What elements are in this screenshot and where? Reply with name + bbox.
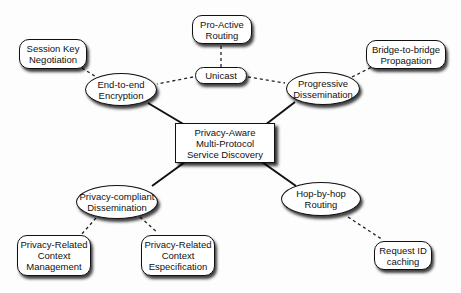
edge-compliant-especification	[140, 217, 158, 233]
node-session-key-negotiation: Session Key Negotiation	[19, 39, 87, 69]
edge-center-compliant	[152, 162, 185, 186]
node-end-to-end-encryption: End-to-end Encryption	[85, 73, 157, 106]
node-request-id-caching: Request ID caching	[374, 241, 432, 270]
node-privacy-compliant-dissemination: Privacy-compliant Dissemination	[76, 185, 158, 219]
edge-center-encryption	[148, 103, 185, 125]
node-progressive-dissemination: Progressive Dissemination	[286, 72, 360, 105]
edge-center-progressive	[265, 102, 295, 125]
node-hop-by-hop-routing: Hop-by-hop Routing	[281, 182, 361, 216]
edge-unicast-encryption	[157, 77, 193, 84]
edge-unicast-progressive	[248, 77, 285, 83]
center-node-privacy-aware-service-discovery: Privacy-Aware Multi-Protocol Service Dis…	[175, 123, 275, 163]
edge-hopbyhop-caching	[348, 217, 383, 240]
edge-center-hopbyhop	[262, 162, 296, 186]
node-pro-active-routing: Pro-Active Routing	[192, 15, 252, 44]
node-privacy-related-context-especification: Privacy-Related Context Especification	[141, 235, 215, 276]
mind-map-diagram: Privacy-Aware Multi-Protocol Service Dis…	[0, 0, 461, 293]
node-unicast: Unicast	[195, 67, 247, 84]
node-bridge-to-bridge-propagation: Bridge-to-bridge Propagation	[366, 40, 446, 69]
edge-progressive-bridge	[352, 67, 372, 77]
node-privacy-related-context-management: Privacy-Related Context Management	[17, 235, 91, 276]
edge-compliant-management	[80, 218, 96, 236]
